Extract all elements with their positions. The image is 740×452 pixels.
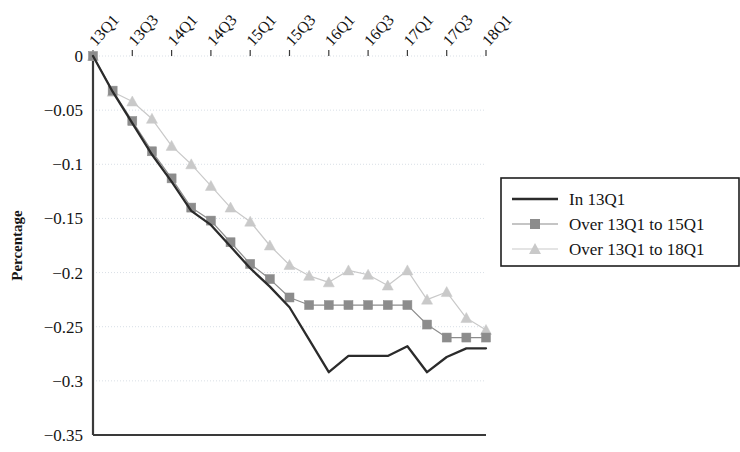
y-axis-tick-label: −0.1 (52, 155, 83, 174)
series-line (93, 56, 486, 330)
data-point-marker-square (344, 301, 353, 310)
data-point-marker-square (423, 320, 432, 329)
data-point-marker-triangle (245, 216, 256, 226)
x-axis-tick-label: 17Q1 (400, 11, 436, 49)
x-axis-tick-label: 17Q3 (439, 11, 475, 49)
data-point-marker-square (462, 333, 471, 342)
x-axis-tick-label: 16Q1 (321, 11, 357, 49)
series-3 (88, 51, 492, 335)
y-axis-tick-label: −0.35 (44, 426, 83, 445)
y-axis-tick-label: −0.25 (44, 318, 83, 337)
x-axis-tick-label: 15Q1 (243, 11, 279, 49)
chart-container: 0−0.05−0.1−0.15−0.2−0.25−0.3−0.35Percent… (0, 0, 740, 452)
x-axis-tick-label: 14Q3 (203, 11, 239, 49)
data-point-marker-triangle (343, 265, 354, 275)
y-axis-tick-label: −0.15 (44, 209, 83, 228)
data-point-marker-triangle (323, 277, 334, 287)
data-point-marker-square (285, 293, 294, 302)
data-point-marker-square (383, 301, 392, 310)
data-point-marker-triangle (166, 140, 177, 150)
data-point-marker-triangle (441, 287, 452, 297)
legend: In 13Q1Over 13Q1 to 15Q1Over 13Q1 to 18Q… (501, 178, 739, 266)
data-point-marker-triangle (461, 313, 472, 323)
legend-label: Over 13Q1 to 18Q1 (569, 240, 705, 259)
data-point-marker-triangle (402, 265, 413, 275)
x-axis-tick-label: 18Q1 (479, 11, 515, 49)
x-axis-tick-label: 13Q1 (86, 11, 122, 49)
x-axis-tick-label: 14Q1 (164, 11, 200, 49)
y-axis-tick-label: −0.05 (44, 101, 83, 120)
data-point-marker-triangle (422, 294, 433, 304)
data-point-marker-triangle (127, 96, 138, 106)
data-point-marker-square (442, 333, 451, 342)
data-point-marker-triangle (304, 270, 315, 280)
legend-label: Over 13Q1 to 15Q1 (569, 215, 705, 234)
y-axis-title: Percentage (9, 210, 25, 281)
y-axis-tick-label: 0 (75, 47, 84, 66)
line-chart: 0−0.05−0.1−0.15−0.2−0.25−0.3−0.35Percent… (0, 0, 740, 452)
data-point-marker-square (364, 301, 373, 310)
x-axis-tick-label: 16Q3 (361, 11, 397, 49)
data-point-marker-triangle (382, 280, 393, 290)
legend-label: In 13Q1 (569, 190, 625, 209)
data-point-marker-square (305, 301, 314, 310)
x-axis-tick-label: 13Q3 (125, 11, 161, 49)
data-point-marker-square (324, 301, 333, 310)
y-axis-tick-label: −0.2 (52, 264, 83, 283)
x-axis-tick-label: 15Q3 (282, 11, 318, 49)
data-point-marker-square (482, 333, 491, 342)
legend-marker-square (530, 219, 540, 229)
y-axis-tick-label: −0.3 (52, 372, 83, 391)
data-point-marker-square (403, 301, 412, 310)
